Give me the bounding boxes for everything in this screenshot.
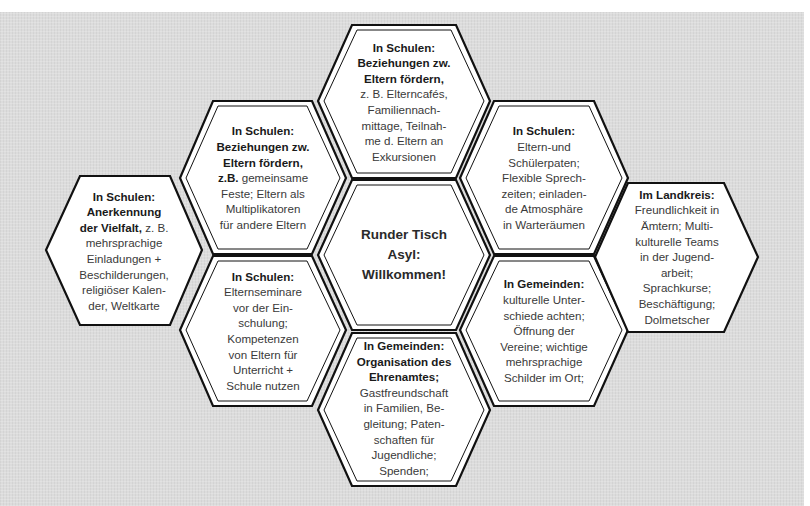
hex-lower-right-title-1: In Gemeinden: — [504, 276, 585, 292]
hex-top-body-3: mittage, Teilnah- — [362, 118, 447, 134]
hex-upper-left-mixed: z.B. gemeinsame — [218, 170, 308, 186]
hex-upper-left-title-1: In Schulen: — [232, 123, 294, 139]
hex-far-right-body-4: in der Jugend- — [640, 249, 714, 265]
hex-lower-right-body-1: kulturelle Unter- — [503, 292, 585, 308]
hex-far-right-body-3: kulturelle Teams — [635, 234, 719, 250]
hex-far-right-body-8: Dolmetscher — [644, 312, 709, 328]
hex-top-body-1: z. B. Elterncafés, — [360, 86, 448, 102]
hex-top-title-2: Beziehungen zw. — [358, 55, 451, 71]
hex-lower-right-body-2: schiede achten; — [503, 308, 584, 324]
hex-lower-right-body-3: Öffnung der — [513, 323, 574, 339]
hex-far-left: In Schulen: Anerkennung der Vielfalt, z.… — [48, 182, 200, 320]
hex-bottom-body-5: Jugendliche; — [371, 447, 436, 463]
hex-upper-right-body-1: Eltern-und — [517, 139, 571, 155]
hex-top-title-3: Eltern fördern, — [364, 71, 444, 87]
hex-upper-right-body-5: de Atmosphäre — [505, 201, 583, 217]
hex-lower-left-title-1: In Schulen: — [232, 269, 294, 285]
hex-bottom-body-3: gleitung; Paten- — [363, 416, 444, 432]
hex-far-right-title-1: Im Landkreis: — [639, 187, 714, 203]
hex-far-left-mixed: der Vielfalt, z. B. — [80, 220, 169, 236]
hex-upper-right-body-6: in Warteräumen — [503, 217, 585, 233]
hex-lower-left-body-3: schulung; — [238, 315, 288, 331]
hex-lower-left-body-4: Kompetenzen — [227, 331, 299, 347]
hex-upper-left-title-2: Beziehungen zw. — [217, 139, 310, 155]
hex-upper-right-title-1: In Schulen: — [513, 123, 575, 139]
hex-top-body-2: Familiennach- — [368, 102, 441, 118]
hex-far-left-body-4: religiöser Kalen- — [82, 282, 166, 298]
hex-far-right: Im Landkreis: Freundlichkeit in Ämtern; … — [598, 184, 756, 330]
hex-upper-left-mixed-normal: gemeinsame — [239, 171, 309, 184]
hex-bottom-title-1: In Gemeinden: — [364, 338, 445, 354]
hex-upper-left: In Schulen: Beziehungen zw. Eltern förde… — [184, 110, 342, 246]
hex-top-body-5: Exkursionen — [372, 149, 436, 165]
hex-bottom-title-2: Organisation des — [357, 354, 452, 370]
hex-top: In Schulen: Beziehungen zw. Eltern förde… — [322, 30, 486, 174]
hex-lower-right-body-6: Schilder im Ort; — [504, 370, 584, 386]
hex-lower-left-body-7: Schule nutzen — [226, 378, 299, 394]
hex-lower-right-body-5: mehrsprachige — [506, 354, 583, 370]
hex-far-left-title-2: Anerkennung — [87, 204, 162, 220]
hex-far-left-body-5: der, Weltkarte — [88, 298, 159, 314]
hex-upper-left-mixed-bold: z.B. — [218, 171, 239, 184]
center-line-3: Willkommen! — [362, 265, 446, 285]
hex-far-left-mixed-normal: z. B. — [142, 221, 168, 234]
hex-lower-left-body-2: vor der Ein- — [233, 300, 293, 316]
hex-upper-left-body-1: Feste; Eltern als — [221, 186, 305, 202]
hex-bottom: In Gemeinden: Organisation des Ehrenamte… — [322, 338, 486, 482]
hex-upper-left-body-3: für andere Eltern — [220, 217, 306, 233]
hex-upper-left-title-3: Eltern fördern, — [223, 155, 303, 171]
hex-top-body-4: me d. Eltern an — [365, 133, 444, 149]
hex-far-right-body-6: Sprachkurse; — [643, 280, 711, 296]
center-line-2: Asyl: — [387, 245, 420, 265]
hex-lower-left-body-1: Elternseminare — [224, 284, 302, 300]
hex-far-left-body-3: Beschilderungen, — [79, 267, 169, 283]
hex-lower-right-body-4: Vereine; wichtige — [500, 339, 588, 355]
hex-far-left-body-2: Einladungen + — [87, 251, 161, 267]
hex-bottom-body-4: schaften für — [374, 432, 435, 448]
hex-lower-left-body-5: von Eltern für — [229, 347, 298, 363]
hex-upper-right-body-2: Schülerpaten; — [508, 155, 580, 171]
hex-far-right-body-5: arbeit; — [661, 265, 693, 281]
hex-bottom-body-2: in Familien, Be- — [364, 400, 445, 416]
hex-lower-left-body-6: Unterricht + — [233, 362, 293, 378]
hex-far-right-body-7: Beschäftigung; — [639, 296, 716, 312]
hex-upper-right-body-4: zeiten; einladen- — [501, 186, 586, 202]
hex-far-right-body-2: Ämtern; Multi- — [641, 218, 713, 234]
hex-bottom-body-1: Gastfreundschaft — [360, 385, 448, 401]
hex-far-left-title-1: In Schulen: — [93, 189, 155, 205]
hex-upper-right-body-3: Flexible Sprech- — [502, 170, 586, 186]
hex-top-title-1: In Schulen: — [373, 40, 435, 56]
hex-far-right-body-1: Freundlichkeit in — [635, 202, 719, 218]
hex-center: Runder Tisch Asyl: Willkommen! — [322, 186, 486, 324]
hex-bottom-body-6: Spenden; — [379, 463, 429, 479]
hex-far-left-mixed-bold: der Vielfalt, — [80, 221, 142, 234]
hex-bottom-title-3: Ehrenamtes; — [369, 369, 439, 385]
hex-lower-left: In Schulen: Elternseminare vor der Ein- … — [184, 262, 342, 400]
hex-upper-left-body-2: Multiplikatoren — [226, 201, 301, 217]
center-line-1: Runder Tisch — [361, 225, 447, 245]
hex-far-left-body-1: mehrsprachige — [86, 235, 163, 251]
